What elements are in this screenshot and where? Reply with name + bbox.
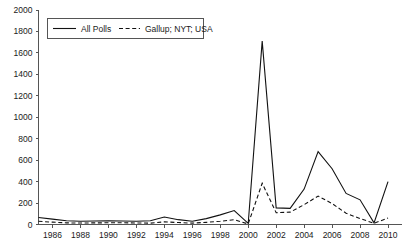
x-tick-label: 2002 bbox=[267, 230, 286, 240]
y-tick-label: 800 bbox=[18, 134, 32, 144]
x-tick-label: 1986 bbox=[43, 230, 62, 240]
x-tick-label: 2006 bbox=[323, 230, 342, 240]
legend-label-gallup-nyt-usa: Gallup; NYT; USA bbox=[145, 24, 213, 34]
x-tick-label: 1992 bbox=[127, 230, 146, 240]
x-tick-label: 2004 bbox=[295, 230, 314, 240]
y-axis-group: 0200400600800100012001400160018002000 bbox=[14, 5, 39, 230]
series-group bbox=[39, 41, 389, 224]
x-tick-label: 1994 bbox=[155, 230, 174, 240]
x-tick-label: 2000 bbox=[239, 230, 258, 240]
x-axis-group: 1986198819901992199419961998200020022004… bbox=[39, 225, 403, 240]
y-tick-label: 2000 bbox=[14, 5, 33, 15]
y-tick-label: 1400 bbox=[14, 69, 33, 79]
line-chart: 0200400600800100012001400160018002000 19… bbox=[0, 0, 408, 249]
y-tick-label: 1800 bbox=[14, 26, 33, 36]
x-tick-label: 2010 bbox=[379, 230, 398, 240]
legend-label-all-polls: All Polls bbox=[81, 24, 111, 34]
y-tick-label: 400 bbox=[18, 177, 32, 187]
legend: All Polls Gallup; NYT; USA bbox=[48, 19, 213, 39]
x-tick-label: 1990 bbox=[99, 230, 118, 240]
y-tick-label: 200 bbox=[18, 198, 32, 208]
y-tick-label: 600 bbox=[18, 155, 32, 165]
chart-container: 0200400600800100012001400160018002000 19… bbox=[0, 0, 408, 249]
series-line-all-polls bbox=[39, 41, 389, 223]
y-tick-label: 1200 bbox=[14, 91, 33, 101]
y-tick-label: 1600 bbox=[14, 48, 33, 58]
y-tick-label: 0 bbox=[28, 220, 33, 230]
x-tick-label: 2008 bbox=[351, 230, 370, 240]
x-tick-label: 1998 bbox=[211, 230, 230, 240]
x-tick-label: 1988 bbox=[71, 230, 90, 240]
series-line-gallup-nyt-usa bbox=[39, 183, 389, 224]
x-axis-tick-labels: 1986198819901992199419961998200020022004… bbox=[43, 230, 398, 240]
y-axis-tick-labels: 0200400600800100012001400160018002000 bbox=[14, 5, 33, 230]
x-tick-label: 1996 bbox=[183, 230, 202, 240]
y-tick-label: 1000 bbox=[14, 112, 33, 122]
